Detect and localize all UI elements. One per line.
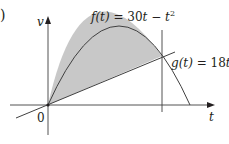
f-label: f(t) = 30t − t2 [90, 9, 175, 24]
shaded-region [48, 12, 162, 105]
y-axis-label: v [37, 15, 44, 29]
origin-point [46, 103, 49, 106]
part-label: ) [0, 7, 5, 23]
g-label: g(t) = 18t [171, 56, 229, 70]
origin-label: 0 [37, 111, 45, 125]
area-between-curves-diagram: ) v t 0 f(t) = 30t − t2 g(t) = 18t [0, 0, 229, 144]
y-axis-arrow-icon [45, 16, 51, 24]
x-axis-label: t [209, 110, 214, 124]
x-axis-arrow-icon [207, 102, 215, 108]
